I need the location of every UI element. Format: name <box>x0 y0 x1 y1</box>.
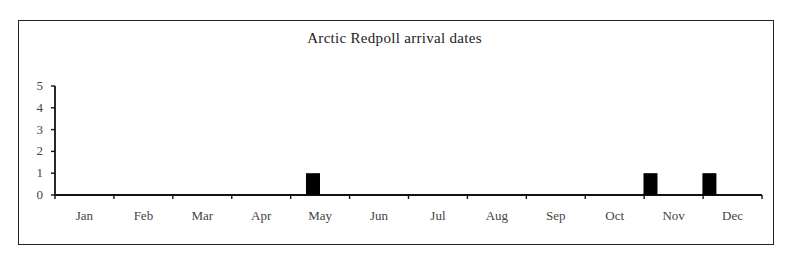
y-tick-label: 3 <box>37 122 44 137</box>
x-tick-label: Jan <box>76 208 94 223</box>
x-tick-label: Feb <box>134 208 154 223</box>
x-tick-label: Oct <box>605 208 624 223</box>
x-tick-label: Aug <box>486 208 509 223</box>
y-tick-label: 5 <box>37 78 44 93</box>
x-tick-label: Jul <box>430 208 446 223</box>
bar-nov <box>643 173 657 195</box>
x-tick-label: Jun <box>370 208 389 223</box>
y-tick-label: 4 <box>37 100 44 115</box>
x-tick-label: Sep <box>546 208 566 223</box>
x-tick-label: Nov <box>662 208 685 223</box>
y-tick-label: 0 <box>37 187 44 202</box>
y-tick-label: 2 <box>37 143 44 158</box>
bar-dec <box>702 173 716 195</box>
x-tick-label: Apr <box>251 208 272 223</box>
bar-chart: 012345JanFebMarAprMayJunJulAugSepOctNovD… <box>0 0 789 260</box>
x-tick-label: Dec <box>722 208 743 223</box>
x-tick-label: Mar <box>191 208 213 223</box>
bar-may <box>306 173 320 195</box>
x-tick-label: May <box>308 208 332 223</box>
y-tick-label: 1 <box>37 165 44 180</box>
